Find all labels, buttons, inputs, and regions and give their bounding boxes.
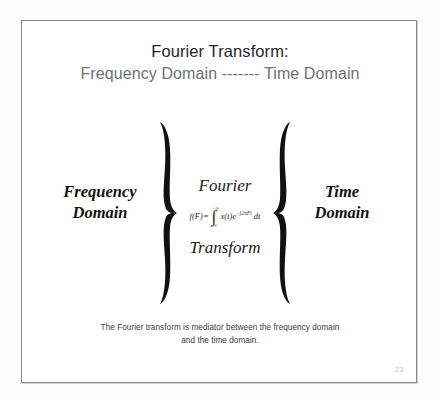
page-number: 23 [395, 365, 404, 374]
formula-equals: = [203, 211, 210, 221]
fourier-transform-formula: f(F)=+∞∫−∞x(t)e−j2πFtdt [190, 207, 261, 227]
formula-integral: +∞∫−∞ [210, 207, 221, 227]
slide-page: Fourier Transform: Frequency Domain ----… [0, 0, 438, 403]
time-domain-label-line2: Domain [278, 202, 406, 223]
slide-title: Fourier Transform: [22, 41, 418, 61]
time-domain-label-line1: Time [278, 181, 406, 202]
caption-line2: and the time domain. [40, 334, 400, 347]
frequency-domain-label-line1: Frequency [36, 181, 164, 202]
formula-integrand-function: x(t) [221, 211, 233, 221]
formula-lower-limit: −∞ [211, 223, 217, 228]
formula-lhs: f(F) [190, 211, 203, 221]
slide-frame: Fourier Transform: Frequency Domain ----… [21, 20, 417, 383]
frequency-domain-label-line2: Domain [36, 202, 164, 223]
formula-differential: dt [252, 211, 261, 221]
integral-sign-icon: ∫ [212, 210, 217, 224]
formula-exponential-power: −j2πFt [236, 210, 252, 216]
title-block: Fourier Transform: Frequency Domain ----… [22, 41, 418, 85]
slide-caption: The Fourier transform is mediator betwee… [40, 321, 400, 347]
fourier-transform-diagram: Frequency Domain Fourier f(F)=+∞∫−∞x(t)e… [22, 113, 418, 313]
time-domain-label: Time Domain [278, 181, 406, 223]
frequency-domain-label: Frequency Domain [36, 181, 164, 223]
caption-line1: The Fourier transform is mediator betwee… [40, 321, 400, 334]
slide-subtitle: Frequency Domain ------- Time Domain [22, 63, 418, 85]
